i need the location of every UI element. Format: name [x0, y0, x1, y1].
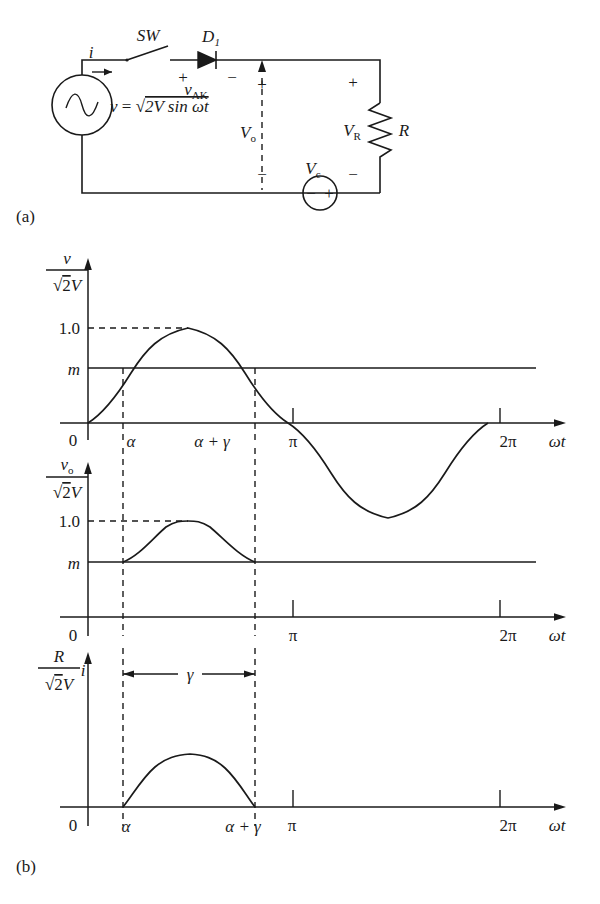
chart1-ytick-1: 1.0	[59, 319, 80, 338]
vr-plus: +	[348, 73, 358, 92]
chart3-xlabel: ωt	[549, 816, 567, 835]
vo-arrow-head	[258, 60, 266, 72]
chart-source-voltage: v √2V 1.0 m 0 α α + γ π 2π ωt	[46, 249, 567, 518]
chart1-ylabel-denominator: √2V	[53, 276, 84, 295]
chart1-xtick-pi: π	[289, 432, 298, 451]
panel-a-label: (a)	[16, 207, 35, 226]
chart2-xtick-2pi: 2π	[499, 626, 517, 645]
gamma-arrow-head-right	[244, 671, 255, 678]
chart3-ylabel-numerator: R	[53, 647, 65, 666]
chart1-xtick-0: 0	[69, 431, 78, 450]
vo-label: Vo	[240, 123, 256, 144]
chart-output-voltage: vo √2V 1.0 m 0 π 2π ωt	[46, 448, 567, 645]
chart2-xtick-0: 0	[69, 626, 78, 645]
chart2-y-axis-arrow	[84, 462, 92, 474]
vo-minus: −	[257, 165, 267, 184]
source-equation: v = √2V sin ωt	[110, 97, 210, 116]
panel-b-label: (b)	[16, 857, 36, 876]
current-label: i	[89, 43, 94, 62]
chart3-ylabel-denominator: √2V	[45, 675, 76, 694]
diode-cathode-minus: −	[227, 68, 237, 87]
current-arrow-head	[104, 69, 112, 76]
resistor-symbol	[369, 103, 391, 160]
gamma-arrow-head-left	[123, 671, 134, 678]
diode-label: D1	[201, 27, 220, 48]
diode-triangle	[198, 52, 216, 68]
chart1-xlabel: ωt	[549, 432, 567, 451]
chart1-ytick-m: m	[68, 360, 80, 379]
chart3-xtick-0: 0	[69, 816, 78, 835]
switch-blade	[127, 46, 168, 60]
chart3-xtick-2pi: 2π	[499, 816, 517, 835]
chart2-ytick-1: 1.0	[59, 512, 80, 531]
chart-load-current: R √2V i γ 0 α α + γ π 2π ωt	[38, 647, 567, 836]
chart2-ylabel-numerator: vo	[60, 455, 74, 476]
chart2-xtick-pi: π	[289, 626, 298, 645]
chart2-xlabel: ωt	[549, 626, 567, 645]
chart1-ylabel-numerator: v	[63, 249, 71, 268]
chart1-y-axis-arrow	[84, 258, 92, 270]
vr-minus: −	[348, 165, 358, 184]
chart3-ylabel-suffix: i	[81, 661, 86, 680]
chart2-x-axis-arrow	[554, 613, 566, 621]
vc-plus: +	[324, 184, 334, 203]
chart3-xtick-alpha-gamma: α + γ	[225, 817, 262, 836]
chart1-x-axis-arrow	[554, 419, 566, 427]
chart3-x-axis-arrow	[554, 803, 566, 811]
switch-label: SW	[137, 26, 162, 45]
chart2-ytick-m: m	[68, 554, 80, 573]
vc-minus: −	[306, 184, 316, 203]
chart3-xtick-pi: π	[288, 816, 297, 835]
switch-pivot	[125, 58, 128, 61]
vc-label: Vc	[305, 159, 320, 180]
chart3-xtick-alpha: α	[122, 817, 132, 836]
resistor-label: R	[398, 121, 410, 140]
vr-label: VR	[343, 121, 361, 142]
chart1-xtick-alpha-gamma: α + γ	[194, 432, 231, 451]
ac-source-sine-glyph	[66, 94, 98, 116]
figure-root: i SW D1 + − vAK v = √2V sin ωt + − Vo R …	[0, 0, 600, 904]
chart2-output-hump	[123, 521, 255, 562]
chart1-xtick-alpha: α	[127, 432, 137, 451]
vo-plus: +	[257, 75, 267, 94]
chart1-xtick-2pi: 2π	[499, 432, 517, 451]
circuit-diagram: i SW D1 + − vAK v = √2V sin ωt + − Vo R …	[52, 26, 410, 210]
chart2-ylabel-denominator: √2V	[53, 483, 84, 502]
chart3-current-pulse	[123, 754, 255, 807]
